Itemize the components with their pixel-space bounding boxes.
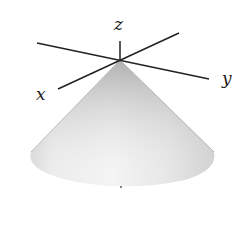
cone-diagram: z x y	[0, 0, 240, 231]
base-point	[120, 186, 122, 188]
x-axis-label: x	[36, 84, 46, 104]
cone-surface	[30, 60, 214, 187]
z-axis-label: z	[113, 14, 124, 34]
y-axis-label: y	[221, 68, 232, 88]
